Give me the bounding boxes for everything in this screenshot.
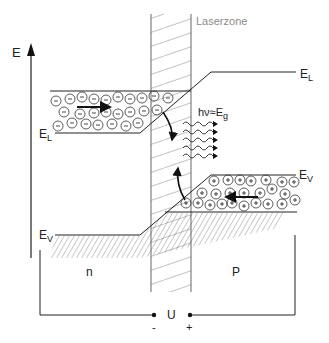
laser-zone-label: Laserzone <box>196 16 247 27</box>
valence-band-right-label: EV <box>299 169 313 184</box>
voltage-label: U <box>167 309 176 321</box>
axis-arrow-icon <box>27 43 35 56</box>
photon-energy-label: hν≈Eg <box>198 107 228 121</box>
valence-band-left-label: EV <box>39 229 53 244</box>
p-region-label: P <box>232 266 240 278</box>
plus-terminal-label: + <box>186 322 192 333</box>
conduction-band-left-label: EL <box>39 128 52 143</box>
conduction-band-right-label: EL <box>300 68 313 83</box>
band-diagram-svg <box>0 0 329 343</box>
minus-terminal-dot <box>152 313 156 317</box>
minus-terminal-label: - <box>152 322 156 333</box>
photon-arrowheads <box>213 121 218 159</box>
energy-axis-label: E <box>12 46 21 59</box>
pn-junction-laser-diagram: E Laserzone EL EL EV EV hν≈Eg n P U - + <box>0 0 329 343</box>
n-region-label: n <box>86 266 93 278</box>
energy-axis <box>27 43 35 258</box>
plus-terminal-dot <box>188 313 192 317</box>
